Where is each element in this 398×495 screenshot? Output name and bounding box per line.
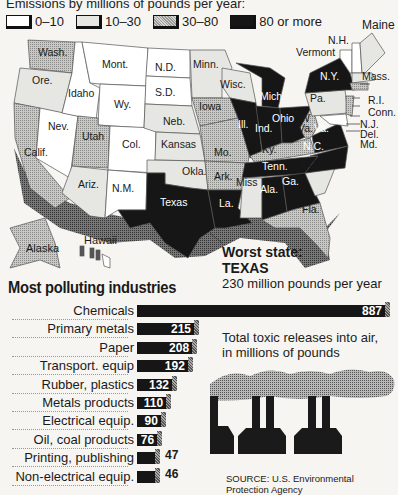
- worst-state-callout: Worst state: TEXAS 230 million pounds pe…: [222, 244, 382, 292]
- map-legend: 0–10 10–30 30–80 80 or more: [6, 14, 330, 29]
- state-label-ri: R.I.: [368, 94, 384, 106]
- bar-3d-edge: [155, 468, 160, 483]
- bar-category-label: Paper: [99, 340, 134, 355]
- state-label-mich: Mich.: [260, 90, 285, 102]
- bar-category-label: Electrical equip.: [42, 413, 134, 428]
- bar: 90: [137, 415, 161, 427]
- bar: 76: [137, 434, 157, 446]
- bar-value: 192: [165, 359, 185, 373]
- bar-category-label: Chemicals: [73, 303, 134, 318]
- state-label-calif: Calif.: [24, 146, 48, 158]
- bar-3d-edge: [172, 376, 177, 391]
- state-label-col: Col.: [122, 138, 141, 150]
- state-label-kansas: Kansas: [161, 138, 196, 150]
- legend-swatch-hatched: [153, 15, 179, 29]
- bar: 132: [137, 379, 172, 391]
- state-label-nh: N.H.: [328, 34, 349, 46]
- worst-state-name: TEXAS: [222, 260, 382, 276]
- state-label-wva-2: Va.: [298, 122, 313, 134]
- state-label-ark: Ark.: [214, 170, 233, 182]
- state-label-maine: Maine: [362, 18, 395, 32]
- bar: 110: [137, 397, 166, 409]
- industries-title: Most polluting industries: [8, 279, 176, 297]
- state-label-ill: Ill.: [238, 118, 249, 130]
- chart-note: Total toxic releases into air, in millio…: [222, 330, 378, 360]
- state-label-ind: Ind.: [255, 122, 273, 134]
- state-label-mass: Mass.: [362, 70, 390, 82]
- state-label-minn: Minn.: [193, 58, 219, 70]
- state-label-mo: Mo.: [214, 146, 232, 158]
- factory-icon: [210, 366, 398, 466]
- bar-3d-edge: [385, 302, 390, 317]
- state-label-utah: Utah: [82, 130, 104, 142]
- worst-state-heading: Worst state:: [222, 244, 382, 260]
- bar-category-label: Transport. equip: [40, 358, 134, 373]
- legend-item-0-10: 0–10: [6, 14, 64, 29]
- bar: 215: [137, 323, 194, 335]
- state-label-iowa: Iowa: [199, 100, 221, 112]
- map-subtitle: Emissions by millions of pounds per year…: [6, 0, 245, 11]
- state-label-tenn: Tenn.: [262, 160, 288, 172]
- bar-3d-edge: [155, 449, 160, 464]
- state-label-ala: Ala.: [260, 183, 278, 195]
- bar-value: 110: [144, 396, 163, 410]
- bar-value: 76: [141, 433, 154, 447]
- state-label-alaska: Alaska: [26, 242, 59, 254]
- legend-item-80-plus: 80 or more: [230, 14, 322, 29]
- legend-swatch-white: [6, 15, 32, 29]
- chart-note-line-2: in millions of pounds: [222, 345, 378, 360]
- state-label-wisc: Wisc.: [220, 78, 246, 90]
- bar-3d-edge: [192, 339, 197, 354]
- legend-label: 80 or more: [259, 14, 322, 29]
- bar-value: 887: [362, 304, 382, 318]
- legend-item-30-80: 30–80: [153, 14, 218, 29]
- state-label-wy: Wy.: [114, 98, 131, 110]
- state-label-mont: Mont.: [102, 58, 128, 70]
- bar-value: 46: [165, 467, 178, 481]
- legend-label: 0–10: [35, 14, 64, 29]
- bar: 192: [137, 360, 188, 372]
- state-label-miss: Miss: [236, 176, 258, 188]
- bar-3d-edge: [157, 431, 162, 446]
- bar: 887: [137, 305, 385, 317]
- state-label-nc: N.C.: [303, 140, 324, 152]
- state-label-vermont: Vermont: [296, 46, 335, 58]
- state-label-sd: S.D.: [155, 86, 175, 98]
- bar-category-label: Primary metals: [47, 321, 134, 336]
- bar-category-label: Oil, coal products: [34, 432, 134, 447]
- state-label-texas: Texas: [160, 196, 187, 208]
- bar-value: 90: [145, 414, 158, 428]
- state-label-fla: Fla.: [302, 203, 320, 215]
- worst-state-detail: 230 million pounds per year: [222, 276, 382, 292]
- bar-row: Chemicals887: [0, 302, 398, 320]
- state-label-okla: Okla.: [182, 165, 207, 177]
- bar-3d-edge: [194, 320, 199, 335]
- bar: [137, 452, 155, 464]
- bar-category-label: Non-electrical equip.: [15, 469, 134, 484]
- state-label-ohio: Ohio: [272, 112, 294, 124]
- bar-category-label: Printing, publishing: [24, 450, 134, 465]
- legend-swatch-black: [230, 15, 256, 29]
- state-label-la: La.: [219, 197, 234, 209]
- state-label-neb: Neb.: [163, 115, 185, 127]
- legend-swatch-light: [76, 15, 102, 29]
- state-label-va: Va.: [314, 122, 329, 134]
- bar: [137, 471, 155, 483]
- bar-value: 47: [165, 448, 178, 462]
- bar-category-label: Metals products: [42, 395, 134, 410]
- bar-category-label: Rubber, plastics: [42, 377, 135, 392]
- state-label-ga: Ga.: [282, 175, 299, 187]
- state-label-ny: N.Y.: [320, 70, 339, 82]
- bar-3d-edge: [188, 357, 193, 372]
- state-label-pa: Pa.: [310, 92, 326, 104]
- state-label-nev: Nev.: [48, 120, 69, 132]
- bar-3d-edge: [166, 394, 171, 409]
- bar-3d-edge: [161, 412, 166, 427]
- legend-label: 10–30: [105, 14, 141, 29]
- factory-smokestacks-illustration: [210, 366, 398, 466]
- state-label-conn: Conn.: [368, 106, 396, 118]
- state-label-hawaii: Hawaii: [84, 234, 117, 246]
- state-label-nd: N.D.: [155, 61, 176, 73]
- bar-value: 215: [171, 322, 191, 336]
- bar-value: 132: [149, 378, 169, 392]
